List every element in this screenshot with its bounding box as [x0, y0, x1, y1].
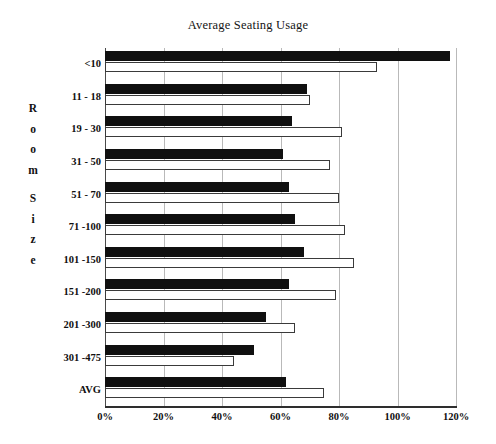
- bar-series-b: [105, 388, 324, 398]
- bar-series-b: [105, 95, 310, 105]
- bar-group: [105, 279, 456, 302]
- category-label: 201 -300: [35, 319, 101, 330]
- x-tick-label: 80%: [309, 411, 369, 422]
- bar-series-b: [105, 258, 354, 268]
- category-label: 51 - 70: [35, 189, 101, 200]
- x-tick-label: 40%: [192, 411, 252, 422]
- bar-series-b: [105, 62, 377, 72]
- bar-group: [105, 214, 456, 237]
- bar-series-b: [105, 323, 295, 333]
- category-label: 301 -475: [35, 352, 101, 363]
- x-axis-line: [105, 406, 457, 408]
- bar-group: [105, 345, 456, 368]
- bar-series-b: [105, 127, 342, 137]
- bar-series-a: [105, 345, 254, 355]
- bar-series-b: [105, 160, 330, 170]
- x-tick-label: 20%: [134, 411, 194, 422]
- x-tick-label: 120%: [426, 411, 486, 422]
- category-label: 101 -150: [35, 254, 101, 265]
- plot-area: [105, 48, 456, 407]
- bar-group: [105, 247, 456, 270]
- bar-series-a: [105, 214, 295, 224]
- bar-series-a: [105, 84, 307, 94]
- category-label: 19 - 30: [35, 123, 101, 134]
- gridline: [456, 48, 457, 407]
- category-label: <10: [35, 58, 101, 69]
- x-tick-label: 0%: [75, 411, 135, 422]
- bar-group: [105, 51, 456, 74]
- category-label: 71 -100: [35, 221, 101, 232]
- bar-group: [105, 116, 456, 139]
- chart-container: Average Seating Usage RoomSize <1011 - 1…: [0, 0, 496, 444]
- category-label: 11 - 18: [35, 91, 101, 102]
- x-tick-label: 100%: [368, 411, 428, 422]
- chart-title: Average Seating Usage: [0, 18, 496, 33]
- category-label: AVG: [35, 384, 101, 395]
- category-label: 31 - 50: [35, 156, 101, 167]
- bar-series-a: [105, 116, 292, 126]
- bar-series-a: [105, 377, 286, 387]
- bar-group: [105, 149, 456, 172]
- bar-series-b: [105, 290, 336, 300]
- x-axis-tick-labels: 0%20%40%60%80%100%120%: [0, 411, 496, 431]
- category-axis-labels: <1011 - 1819 - 3031 - 5051 - 7071 -10010…: [33, 48, 101, 407]
- x-tick-label: 60%: [251, 411, 311, 422]
- bar-series-a: [105, 182, 289, 192]
- bar-group: [105, 84, 456, 107]
- bar-series-a: [105, 247, 304, 257]
- bar-group: [105, 182, 456, 205]
- bar-group: [105, 312, 456, 335]
- bar-group: [105, 377, 456, 400]
- bar-series-b: [105, 356, 234, 366]
- bar-series-a: [105, 149, 283, 159]
- bar-series-a: [105, 279, 289, 289]
- bar-series-a: [105, 312, 266, 322]
- category-label: 151 -200: [35, 286, 101, 297]
- bar-series-b: [105, 225, 345, 235]
- bar-series-b: [105, 193, 339, 203]
- bar-series-a: [105, 51, 450, 61]
